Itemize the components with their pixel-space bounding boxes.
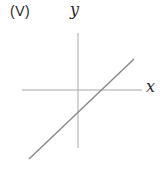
- plotted-line: [29, 59, 134, 159]
- option-label: (V): [10, 4, 30, 18]
- y-axis-label: y: [70, 2, 79, 18]
- axes-figure: (V) y x: [0, 0, 160, 171]
- figure-svg: [0, 0, 160, 171]
- x-axis-label: x: [146, 79, 155, 95]
